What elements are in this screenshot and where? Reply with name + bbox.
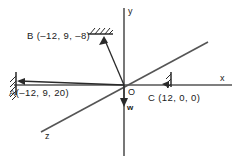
y-axis-label: y: [128, 7, 133, 16]
free-body-diagram: A(‒12, 9, 20) B (‒12, 9, ‒8) C (12, 0, 0…: [0, 0, 239, 164]
point-label-c: C (12, 0, 0): [148, 93, 200, 103]
cable-ob: [104, 38, 124, 85]
x-axis-label: x: [220, 74, 225, 83]
weight-label: w: [127, 104, 134, 112]
origin-label: O: [128, 88, 135, 97]
support-hatch-b: [88, 28, 113, 34]
point-label-a: A(‒12, 9, 20): [9, 88, 69, 98]
arrowhead-a: [17, 78, 25, 85]
arrowhead-c: [162, 81, 169, 88]
point-label-b: B (‒12, 9, ‒8): [27, 31, 90, 41]
z-axis-label: z: [45, 132, 50, 141]
diagram-canvas: [0, 0, 239, 164]
